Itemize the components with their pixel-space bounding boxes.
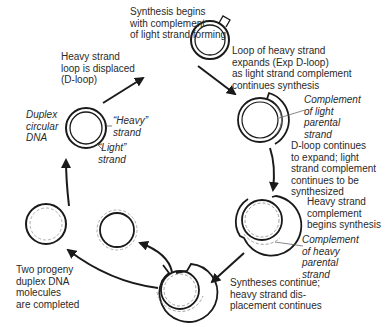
label-syntheses-continue: Syntheses continue; heavy strand dis- pl…: [230, 277, 322, 312]
label-d-loop-continues: D-loop continues to expand; light strand…: [291, 140, 376, 198]
label-two-progeny: Two progeny duplex DNA molecules are com…: [16, 264, 79, 310]
separation-circle-icon: [157, 264, 217, 322]
label-d-loop-displaced: Heavy strand loop is displaced (D-loop): [61, 51, 135, 86]
arrow-separation-to-progeny2-icon: [140, 243, 172, 272]
label-duplex-circular: Duplex circular DNA: [26, 109, 58, 144]
label-loop-expands: Loop of heavy strand expands (Exp D-loop…: [232, 45, 352, 91]
label-synthesis-begins: Synthesis begins with complement of ligh…: [130, 6, 226, 41]
arrow-separation-to-progeny1-icon: [68, 250, 158, 288]
label-heavy-strand: “Heavy” strand: [113, 115, 148, 138]
heavy-complement-icon: [236, 196, 303, 256]
progeny-duplex-1-icon: [26, 204, 66, 244]
arrow-progeny-to-duplex-icon: [66, 160, 69, 206]
progeny-duplex-2-icon: [97, 210, 137, 250]
label-light-strand: “Light” strand: [98, 142, 126, 165]
label-complement-heavy: Complement of heavy parental strand: [302, 234, 359, 280]
label-heavy-complement-begins: Heavy strand complement begins synthesis: [307, 196, 381, 231]
expanded-d-loop-icon: [238, 93, 305, 144]
arrow-dloop-to-exp-icon: [198, 66, 235, 94]
arrow-exp-to-continues-icon: [270, 148, 274, 190]
label-complement-light: Complement of light parental strand: [304, 94, 361, 140]
